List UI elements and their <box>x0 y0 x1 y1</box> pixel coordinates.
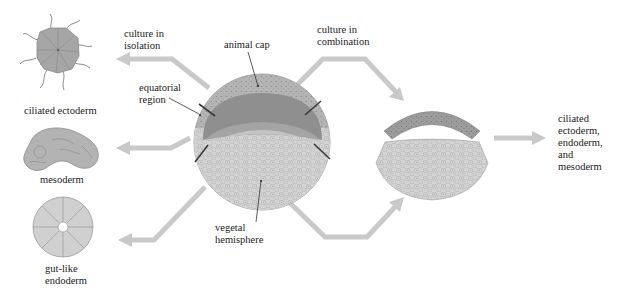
label-result: ciliated ectoderm, endoderm, and mesoder… <box>558 113 605 172</box>
whole-embryo <box>190 74 334 218</box>
label-culture-combination: culture in combination <box>317 24 370 47</box>
embryo-culture-diagram: culture in isolation culture in combinat… <box>0 0 620 294</box>
arrow-to-mesoderm <box>128 138 190 148</box>
endoderm-lumen <box>58 222 68 232</box>
vegetal-dot <box>260 180 262 182</box>
label-mesoderm: mesoderm <box>40 174 84 185</box>
label-vegetal-hemisphere: vegetal hemisphere <box>215 222 264 245</box>
label-culture-isolation: culture in isolation <box>124 28 167 51</box>
arrow-combination-bottom <box>287 200 396 237</box>
gut-like-endoderm-illustration <box>33 197 93 257</box>
cilium <box>20 58 36 64</box>
arrowhead-left-3 <box>118 233 132 247</box>
label-gut-like-endoderm: gut-like endoderm <box>45 263 87 286</box>
arrowhead-result <box>532 131 546 145</box>
recombinant-vegetal-piece <box>376 139 488 200</box>
label-ciliated-ectoderm: ciliated ectoderm <box>24 105 97 116</box>
recombinant-explant <box>376 112 488 201</box>
animal-cap-dot <box>257 85 259 87</box>
equatorial-dot <box>199 114 201 116</box>
arrow-combination-top <box>292 59 396 92</box>
cilium <box>23 34 38 40</box>
label-equatorial-region: equatorial region <box>139 82 184 105</box>
label-animal-cap: animal cap <box>224 39 270 50</box>
ciliated-ectoderm-illustration <box>20 14 92 90</box>
cilium <box>66 20 80 30</box>
cilium <box>63 71 64 90</box>
arrow-to-endoderm <box>131 187 205 240</box>
cilium <box>40 70 47 88</box>
vegetal-fill <box>190 128 334 218</box>
mesoderm-illustration <box>24 128 98 171</box>
equatorial-leader <box>169 98 199 114</box>
arrowhead-left-2 <box>116 141 130 155</box>
recombinant-animal-cap <box>384 112 480 140</box>
arrowhead-left-1 <box>116 52 130 66</box>
